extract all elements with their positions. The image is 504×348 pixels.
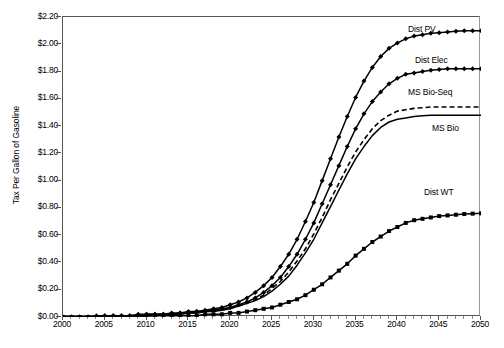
series-marker bbox=[379, 235, 383, 239]
y-tick-mark bbox=[56, 125, 61, 126]
series-marker bbox=[311, 220, 316, 225]
x-tick-label: 2000 bbox=[42, 320, 82, 329]
x-tick-label: 2040 bbox=[376, 320, 416, 329]
y-tick-mark bbox=[56, 207, 61, 208]
series-marker bbox=[303, 293, 307, 297]
series-marker bbox=[428, 68, 433, 73]
series-marker bbox=[320, 282, 324, 286]
series-marker bbox=[395, 225, 399, 229]
series-marker bbox=[262, 307, 266, 311]
y-tick-label: $2.00 bbox=[0, 39, 58, 48]
series-marker bbox=[170, 314, 174, 317]
y-tick-label: $0.80 bbox=[0, 202, 58, 211]
series-marker bbox=[161, 314, 165, 317]
series-marker bbox=[211, 312, 215, 316]
series-marker bbox=[412, 218, 416, 222]
x-tick-label: 2050 bbox=[460, 320, 500, 329]
series-marker bbox=[354, 254, 358, 258]
series-marker bbox=[345, 114, 350, 119]
y-tick-mark bbox=[56, 289, 61, 290]
series-marker bbox=[311, 200, 316, 205]
x-tick-label: 2045 bbox=[418, 320, 458, 329]
series-marker bbox=[312, 288, 316, 292]
x-tick-label: 2020 bbox=[209, 320, 249, 329]
series-marker bbox=[454, 213, 458, 217]
series-marker bbox=[245, 310, 249, 314]
series-marker bbox=[303, 219, 308, 224]
series-marker bbox=[412, 70, 417, 75]
y-tick-label: $1.80 bbox=[0, 66, 58, 75]
series-marker bbox=[203, 312, 207, 316]
series-marker bbox=[111, 315, 115, 317]
y-tick-label: $1.60 bbox=[0, 93, 58, 102]
y-tick-label: $0.60 bbox=[0, 230, 58, 239]
y-tick-mark bbox=[56, 316, 61, 317]
series-marker bbox=[437, 67, 442, 72]
series-marker bbox=[470, 28, 475, 33]
series-marker bbox=[86, 315, 90, 317]
x-tick-label: 2025 bbox=[251, 320, 291, 329]
series-marker bbox=[220, 312, 224, 316]
series-marker bbox=[120, 315, 124, 317]
series-marker bbox=[353, 95, 358, 100]
series-marker bbox=[328, 182, 333, 187]
series-marker bbox=[336, 135, 341, 140]
series-marker bbox=[471, 212, 475, 216]
series-marker bbox=[437, 30, 442, 35]
series-marker bbox=[153, 314, 157, 317]
series-label-dist-wt: Dist WT bbox=[424, 188, 454, 197]
chart-figure: Tax Per Gallon of Gasoline $0.00$0.20$0.… bbox=[0, 0, 504, 348]
series-marker bbox=[412, 34, 417, 39]
x-tick-label: 2015 bbox=[167, 320, 207, 329]
series-marker bbox=[228, 311, 232, 315]
series-dist-wt bbox=[63, 211, 481, 317]
series-marker bbox=[337, 269, 341, 273]
series-line bbox=[63, 31, 481, 317]
series-marker bbox=[470, 66, 475, 71]
series-marker bbox=[320, 201, 325, 206]
y-tick-mark bbox=[56, 261, 61, 262]
series-marker bbox=[336, 163, 341, 168]
series-marker bbox=[462, 28, 467, 33]
series-marker bbox=[462, 212, 466, 216]
series-marker bbox=[403, 72, 408, 77]
y-tick-mark bbox=[56, 16, 61, 17]
series-marker bbox=[403, 36, 408, 41]
x-tick-label: 2035 bbox=[335, 320, 375, 329]
y-tick-mark bbox=[56, 152, 61, 153]
y-tick-mark bbox=[56, 98, 61, 99]
series-marker bbox=[445, 30, 450, 35]
series-label-ms-bio-seq: MS Bio-Seq bbox=[408, 88, 452, 97]
series-marker bbox=[186, 314, 190, 317]
series-marker bbox=[479, 66, 482, 71]
series-marker bbox=[404, 221, 408, 225]
series-marker bbox=[453, 29, 458, 34]
series-marker bbox=[287, 300, 291, 304]
series-marker bbox=[128, 315, 132, 317]
series-marker bbox=[328, 156, 333, 161]
series-dist-pv bbox=[63, 28, 481, 317]
series-marker bbox=[345, 144, 350, 149]
y-tick-mark bbox=[56, 43, 61, 44]
y-tick-label: $2.20 bbox=[0, 12, 58, 21]
x-tick-label: 2005 bbox=[84, 320, 124, 329]
y-tick-mark bbox=[56, 71, 61, 72]
series-marker bbox=[136, 315, 140, 317]
series-marker bbox=[237, 311, 241, 315]
y-tick-label: $1.00 bbox=[0, 175, 58, 184]
series-label-dist-elec: Dist Elec bbox=[415, 56, 448, 65]
y-tick-mark bbox=[56, 234, 61, 235]
series-marker bbox=[453, 66, 458, 71]
series-marker bbox=[362, 247, 366, 251]
series-marker bbox=[195, 314, 199, 317]
series-marker bbox=[446, 213, 450, 217]
series-marker bbox=[69, 315, 73, 317]
series-marker bbox=[270, 305, 274, 309]
series-marker bbox=[437, 214, 441, 218]
series-label-ms-bio: MS Bio bbox=[432, 124, 459, 133]
series-marker bbox=[295, 297, 299, 301]
y-tick-label: $1.20 bbox=[0, 148, 58, 157]
series-marker bbox=[329, 275, 333, 279]
series-marker bbox=[320, 178, 325, 183]
series-marker bbox=[178, 314, 182, 317]
